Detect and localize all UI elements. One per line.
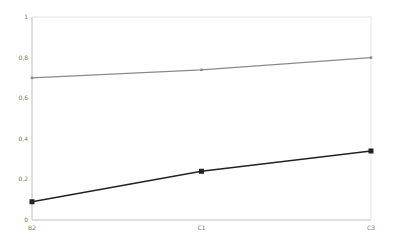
data-point-marker <box>199 169 204 174</box>
series-group <box>30 56 374 204</box>
plot-frame <box>32 17 371 220</box>
plot-area-border <box>32 17 371 220</box>
series-1 <box>31 56 373 79</box>
series-line <box>32 58 371 78</box>
x-tick-label: C1 <box>197 224 205 231</box>
series-line <box>32 151 371 202</box>
y-tick-label: 0 <box>24 216 28 223</box>
data-point-marker <box>30 199 35 204</box>
y-axis: 00,20,40,60,81 <box>18 13 28 223</box>
y-tick-label: 0,4 <box>18 135 28 142</box>
x-axis: B2C1C3 <box>28 224 375 231</box>
x-tick-label: C3 <box>367 224 375 231</box>
data-point-marker <box>200 69 203 72</box>
data-point-marker <box>369 148 374 153</box>
data-point-marker <box>370 56 373 59</box>
series-2 <box>30 148 374 204</box>
y-tick-label: 0,6 <box>18 94 28 101</box>
y-tick-label: 0,2 <box>18 175 28 182</box>
y-tick-label: 1 <box>24 13 28 20</box>
data-point-marker <box>31 77 34 80</box>
x-tick-label: B2 <box>28 224 36 231</box>
y-tick-label: 0,8 <box>18 54 28 61</box>
line-chart: 00,20,40,60,81 B2C1C3 <box>0 0 394 245</box>
